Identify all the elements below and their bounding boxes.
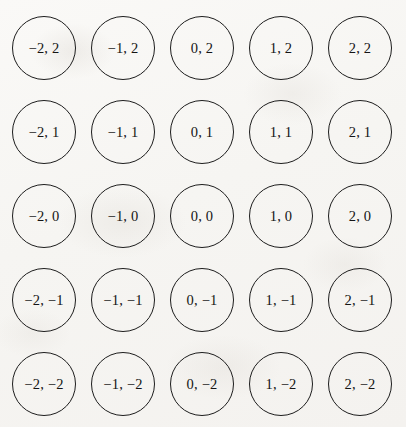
grid-node-label: −2, −1 [24, 293, 63, 308]
grid-node-label: −1, 0 [108, 209, 139, 224]
grid-node-label: 0, 0 [191, 209, 214, 224]
grid-node-label: −2, 0 [29, 209, 60, 224]
grid-node-label: 2, −2 [345, 377, 376, 392]
grid-node[interactable]: −2, 2 [12, 16, 76, 80]
grid-node[interactable]: 1, 0 [249, 184, 313, 248]
grid-node-label: 1, −2 [266, 377, 297, 392]
grid-node[interactable]: 0, 0 [170, 184, 234, 248]
grid-node-label: 2, 0 [349, 209, 372, 224]
grid-node[interactable]: −2, −1 [12, 268, 76, 332]
grid-node[interactable]: −1, 1 [91, 100, 155, 164]
grid-node-label: 2, 2 [349, 41, 372, 56]
grid-node-label: −1, 2 [108, 41, 139, 56]
grid-node[interactable]: −2, −2 [12, 352, 76, 416]
grid-node-label: −1, −1 [103, 293, 142, 308]
grid-node[interactable]: 2, 0 [328, 184, 392, 248]
grid-node[interactable]: 1, 1 [249, 100, 313, 164]
grid-node[interactable]: 1, −1 [249, 268, 313, 332]
grid-node[interactable]: 0, −1 [170, 268, 234, 332]
grid-node[interactable]: 2, −2 [328, 352, 392, 416]
grid-node-label: 1, 1 [270, 125, 293, 140]
grid-node-label: 2, −1 [345, 293, 376, 308]
grid-node-label: −1, 1 [108, 125, 139, 140]
figure-canvas: −2, 2−1, 20, 21, 22, 2−2, 1−1, 10, 11, 1… [0, 0, 406, 427]
grid-node[interactable]: −2, 1 [12, 100, 76, 164]
grid-node-label: 1, 2 [270, 41, 293, 56]
grid-node[interactable]: 2, −1 [328, 268, 392, 332]
grid-node[interactable]: 2, 2 [328, 16, 392, 80]
grid-node-label: 1, 0 [270, 209, 293, 224]
grid-node-label: −1, −2 [103, 377, 142, 392]
grid-node[interactable]: 1, 2 [249, 16, 313, 80]
grid-node-label: 0, −1 [187, 293, 218, 308]
grid-node[interactable]: 1, −2 [249, 352, 313, 416]
grid-node-label: −2, −2 [24, 377, 63, 392]
grid-node[interactable]: −2, 0 [12, 184, 76, 248]
grid-node[interactable]: −1, 0 [91, 184, 155, 248]
grid-node-label: −2, 2 [29, 41, 60, 56]
grid-node-label: 2, 1 [349, 125, 372, 140]
grid-node[interactable]: 2, 1 [328, 100, 392, 164]
grid-node[interactable]: 0, 2 [170, 16, 234, 80]
grid-node[interactable]: 0, 1 [170, 100, 234, 164]
grid-node-label: 1, −1 [266, 293, 297, 308]
grid-node-label: 0, −2 [187, 377, 218, 392]
node-grid: −2, 2−1, 20, 21, 22, 2−2, 1−1, 10, 11, 1… [0, 0, 406, 427]
grid-node[interactable]: −1, −2 [91, 352, 155, 416]
grid-node-label: 0, 1 [191, 125, 214, 140]
grid-node-label: 0, 2 [191, 41, 214, 56]
grid-node[interactable]: 0, −2 [170, 352, 234, 416]
grid-node-label: −2, 1 [29, 125, 60, 140]
grid-node[interactable]: −1, 2 [91, 16, 155, 80]
grid-node[interactable]: −1, −1 [91, 268, 155, 332]
